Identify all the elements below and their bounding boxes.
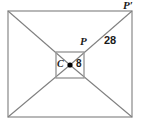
ray-top-left (8, 11, 70, 65)
label-p: P (80, 36, 87, 47)
ray-bottom-right (70, 65, 132, 117)
center-point-dot (67, 62, 72, 67)
label-p-prime: P′ (123, 0, 133, 11)
geometry-figure: P′ P 28 C 8 (0, 0, 144, 126)
figure-canvas (0, 0, 144, 126)
label-center-c: C (57, 59, 64, 69)
label-segment-28: 28 (104, 35, 116, 46)
label-segment-8: 8 (76, 59, 82, 69)
ray-bottom-left (8, 65, 70, 117)
